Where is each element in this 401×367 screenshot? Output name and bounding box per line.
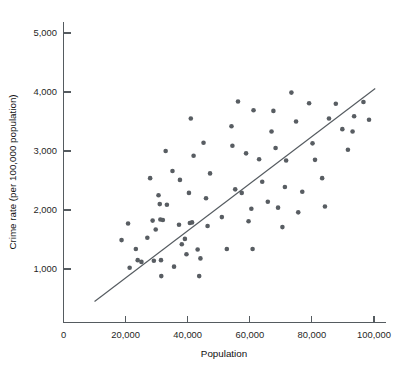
x-tick-label: 0 xyxy=(61,329,66,340)
data-point xyxy=(230,143,235,148)
plot-canvas: 1,0002,0003,0004,0005,000 020,00040,0006… xyxy=(0,0,401,367)
data-point xyxy=(150,218,155,223)
data-point xyxy=(208,171,213,176)
data-point xyxy=(352,114,357,119)
data-point xyxy=(127,266,132,271)
data-point xyxy=(334,102,339,107)
data-point xyxy=(145,235,150,240)
data-point xyxy=(184,252,189,257)
x-axis-ticks: 020,00040,00060,00080,000100,000 xyxy=(61,316,391,341)
data-point xyxy=(289,90,294,95)
data-point xyxy=(340,127,345,132)
x-tick-label: 20,000 xyxy=(111,329,140,340)
data-point xyxy=(350,129,355,134)
data-point xyxy=(163,149,168,154)
data-point xyxy=(198,256,203,261)
data-point xyxy=(157,202,162,207)
data-point xyxy=(327,116,332,121)
data-point xyxy=(239,191,244,196)
data-point xyxy=(323,204,328,209)
data-point xyxy=(320,176,325,181)
data-point xyxy=(276,205,281,210)
scatter-plot-figure: 1,0002,0003,0004,0005,000 020,00040,0006… xyxy=(0,0,401,367)
data-point xyxy=(189,116,194,121)
data-point xyxy=(201,140,206,145)
data-point xyxy=(195,247,200,252)
x-tick-label: 60,000 xyxy=(235,329,264,340)
y-tick-label: 2,000 xyxy=(34,204,57,215)
data-point xyxy=(153,227,158,232)
data-point xyxy=(294,119,299,124)
data-point xyxy=(346,148,351,153)
data-points-group xyxy=(119,90,371,278)
data-point xyxy=(273,146,278,151)
data-point xyxy=(284,158,289,163)
y-tick-label: 1,000 xyxy=(34,263,57,274)
data-point xyxy=(296,210,301,215)
data-point xyxy=(156,193,161,198)
data-point xyxy=(310,141,315,146)
data-point xyxy=(361,100,366,105)
y-tick-label: 5,000 xyxy=(34,27,57,38)
data-point xyxy=(225,247,230,252)
data-point xyxy=(180,242,185,247)
y-axis-ticks: 1,0002,0003,0004,0005,000 xyxy=(34,27,71,274)
data-point xyxy=(178,178,183,183)
x-tick-label: 80,000 xyxy=(298,329,327,340)
data-point xyxy=(307,101,312,106)
data-point xyxy=(165,202,170,207)
data-point xyxy=(229,124,234,129)
data-point xyxy=(246,219,251,224)
data-point xyxy=(191,153,196,158)
data-point xyxy=(204,196,209,201)
data-point xyxy=(269,129,274,134)
data-point xyxy=(161,218,166,223)
data-point xyxy=(249,207,254,212)
y-tick-label: 3,000 xyxy=(34,145,57,156)
data-point xyxy=(152,258,157,263)
data-point xyxy=(119,238,124,243)
x-tick-label: 40,000 xyxy=(173,329,202,340)
x-axis-title: Population xyxy=(201,348,247,359)
data-point xyxy=(187,191,192,196)
data-point xyxy=(220,215,225,220)
data-point xyxy=(300,189,305,194)
data-point xyxy=(244,151,249,156)
data-point xyxy=(233,187,238,192)
data-point xyxy=(313,158,318,163)
data-point xyxy=(250,247,255,252)
x-tick-label: 100,000 xyxy=(357,329,391,340)
regression-line xyxy=(95,88,376,301)
data-point xyxy=(126,221,131,226)
data-point xyxy=(159,274,164,279)
data-point xyxy=(266,199,271,204)
data-point xyxy=(148,176,153,181)
y-axis-title: Crime rate (per 100,000 population) xyxy=(7,94,18,249)
data-point xyxy=(257,157,262,162)
data-point xyxy=(183,237,188,242)
data-point xyxy=(139,260,144,265)
data-point xyxy=(197,274,202,279)
data-point xyxy=(260,179,265,184)
data-point xyxy=(283,185,288,190)
data-point xyxy=(271,109,276,114)
data-point xyxy=(172,264,177,269)
axes-group xyxy=(64,22,387,323)
data-point xyxy=(170,169,175,174)
data-point xyxy=(205,224,210,229)
data-point xyxy=(190,220,195,225)
y-tick-label: 4,000 xyxy=(34,86,57,97)
regression-line-group xyxy=(95,88,376,301)
data-point xyxy=(177,222,182,227)
data-point xyxy=(134,247,139,252)
data-point xyxy=(251,108,256,113)
data-point xyxy=(236,99,241,104)
data-point xyxy=(367,117,372,122)
data-point xyxy=(280,225,285,230)
data-point xyxy=(159,258,164,263)
